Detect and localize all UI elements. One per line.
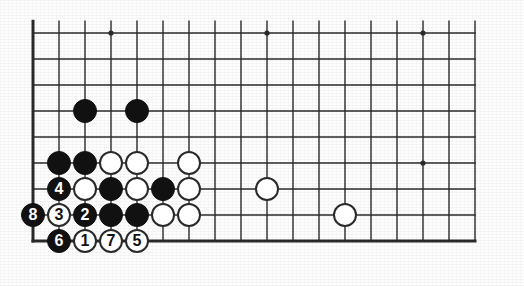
white-stone xyxy=(177,177,201,201)
black-stone xyxy=(125,99,149,123)
numbered-stone-5: 5 xyxy=(125,229,149,253)
white-stone xyxy=(255,177,279,201)
white-stone xyxy=(177,203,201,227)
stone-number-label: 8 xyxy=(29,207,38,223)
numbered-stone-7: 7 xyxy=(99,229,123,253)
stone-number-label: 2 xyxy=(81,207,90,223)
stone-number-label: 1 xyxy=(81,233,90,249)
numbered-stone-3: 3 xyxy=(47,203,71,227)
white-stone xyxy=(99,151,123,175)
black-stone xyxy=(99,203,123,227)
numbered-stone-8: 8 xyxy=(21,203,45,227)
stone-number-label: 3 xyxy=(55,207,64,223)
star-point xyxy=(420,160,425,165)
numbered-stone-4: 4 xyxy=(47,177,71,201)
black-stone xyxy=(99,177,123,201)
grid-lines xyxy=(33,21,475,241)
numbered-stone-6: 6 xyxy=(47,229,71,253)
numbered-stone-2: 2 xyxy=(73,203,97,227)
stone-number-label: 4 xyxy=(55,181,64,197)
stone-number-label: 6 xyxy=(55,233,64,249)
black-stone xyxy=(47,151,71,175)
stone-number-label: 5 xyxy=(133,233,142,249)
go-diagram: 48326175 xyxy=(0,0,524,286)
black-stone xyxy=(73,99,97,123)
stone-number-label: 7 xyxy=(107,233,116,249)
white-stone xyxy=(125,151,149,175)
white-stone xyxy=(151,203,175,227)
black-stone xyxy=(151,177,175,201)
star-point xyxy=(108,30,113,35)
black-stone xyxy=(73,151,97,175)
black-stone xyxy=(125,203,149,227)
star-point xyxy=(264,30,269,35)
white-stone xyxy=(73,177,97,201)
white-stone xyxy=(125,177,149,201)
numbered-stone-1: 1 xyxy=(73,229,97,253)
white-stone xyxy=(333,203,357,227)
white-stone xyxy=(177,151,201,175)
star-point xyxy=(420,30,425,35)
